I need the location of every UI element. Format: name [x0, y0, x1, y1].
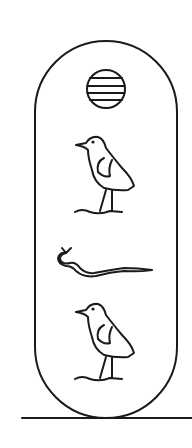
bird-icon	[75, 137, 134, 213]
sun-disk-icon	[87, 70, 125, 108]
cartouche-figure	[0, 0, 192, 448]
cartouche-outline	[35, 41, 177, 418]
bird-icon	[75, 304, 134, 380]
horned-viper-icon	[58, 248, 152, 276]
